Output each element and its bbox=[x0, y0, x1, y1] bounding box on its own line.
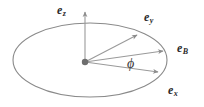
label-e-y-base: e bbox=[144, 10, 149, 24]
vector-ex-arrow bbox=[85, 62, 158, 72]
label-e-z-sub: z bbox=[63, 9, 66, 18]
label-e-b: eB bbox=[177, 42, 188, 56]
label-angle-phi: ϕ bbox=[127, 57, 134, 71]
label-e-b-base: e bbox=[177, 41, 182, 55]
vector-diagram-figure: ez ey eB ex ϕ bbox=[0, 0, 204, 107]
label-e-x-sub: x bbox=[174, 89, 178, 98]
label-e-z: ez bbox=[57, 4, 66, 18]
label-e-y: ey bbox=[144, 11, 153, 25]
label-e-z-base: e bbox=[57, 3, 62, 17]
origin-point bbox=[82, 59, 88, 65]
label-e-x-base: e bbox=[168, 83, 173, 97]
label-e-b-sub: B bbox=[183, 47, 188, 56]
label-e-x: ex bbox=[168, 84, 178, 98]
label-e-y-sub: y bbox=[150, 16, 154, 25]
